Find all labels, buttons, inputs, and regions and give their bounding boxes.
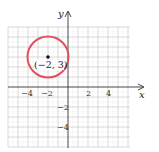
y-axis-label: y (57, 8, 64, 19)
tick-x-4: 4 (106, 89, 111, 98)
tick-y-neg4: −4 (57, 123, 69, 132)
axes (8, 11, 144, 148)
tick-y-neg2: −2 (57, 103, 69, 112)
center-label: (−2, 3) (34, 59, 68, 70)
tick-x-2: 2 (86, 89, 91, 98)
tick-x-neg2: −2 (41, 89, 53, 98)
tick-x-neg4: −4 (21, 89, 33, 98)
x-axis-label: x (139, 89, 145, 100)
coordinate-plane: x y −4 −2 2 4 −2 −4 (−2, 3) (0, 0, 159, 152)
